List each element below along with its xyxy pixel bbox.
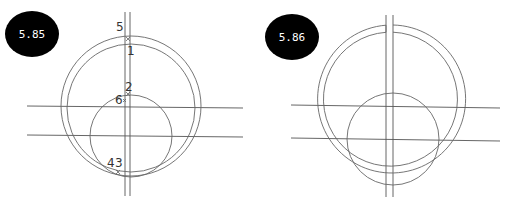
figure-badge: 5.86 xyxy=(265,14,319,60)
badge-label: 5.86 xyxy=(279,31,306,44)
marker-6 xyxy=(123,99,126,102)
point-label-2: 2 xyxy=(125,80,133,94)
point-label-1: 1 xyxy=(127,44,135,58)
horizontal-line-lower xyxy=(291,138,500,141)
inner-ring-circle xyxy=(323,32,457,166)
point-label-3: 3 xyxy=(115,156,123,170)
horizontal-line-lower xyxy=(27,135,243,137)
point-label-4: 4 xyxy=(107,156,115,170)
figure-5-86: 5.86 xyxy=(265,14,500,197)
figure-badge: 5.85 xyxy=(5,11,59,57)
figure-5-85: 5.85 5 1 2 6 4 3 xyxy=(5,11,243,196)
marker-1 xyxy=(126,37,130,41)
point-label-6: 6 xyxy=(115,93,123,107)
badge-label: 5.85 xyxy=(19,28,46,41)
horizontal-line-upper xyxy=(27,106,243,108)
diagram-canvas: 5.85 5 1 2 6 4 3 5.86 xyxy=(0,0,506,204)
inner-ring-circle xyxy=(67,44,195,172)
outer-circle xyxy=(318,25,466,173)
point-label-5: 5 xyxy=(116,20,124,34)
horizontal-line-upper xyxy=(291,105,500,108)
